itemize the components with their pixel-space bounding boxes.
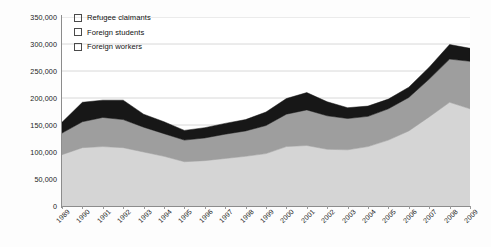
x-axis-tick-mark	[307, 206, 308, 209]
x-axis-tick-label: 2005	[381, 208, 397, 224]
x-axis-tick-label: 2002	[320, 208, 336, 224]
x-axis-tick-label: 2003	[340, 208, 356, 224]
legend-label-foreign-students: Foreign students	[87, 28, 144, 37]
x-axis-tick-mark	[470, 206, 471, 209]
x-axis-tick-mark	[225, 206, 226, 209]
x-axis-tick-mark	[368, 206, 369, 209]
x-axis-tick-label: 1998	[238, 208, 254, 224]
x-axis-tick-mark	[103, 206, 104, 209]
legend-item-foreign-workers: Foreign workers	[74, 42, 151, 51]
x-axis-tick-mark	[450, 206, 451, 209]
x-axis-tick-mark	[327, 206, 328, 209]
x-axis-tick-label: 1995	[177, 208, 193, 224]
legend-item-foreign-students: Foreign students	[74, 28, 151, 37]
x-axis-tick-mark	[184, 206, 185, 209]
x-axis-tick-mark	[205, 206, 206, 209]
y-axis-tick-label: 300,000	[30, 40, 57, 49]
x-axis-tick-label: 1989	[55, 208, 71, 224]
black-swatch-icon	[74, 14, 82, 22]
stacked-area-chart: 350,000300,000250,000200,000150,000100,0…	[0, 0, 491, 250]
x-axis-tick-label: 1999	[259, 208, 275, 224]
chart-legend: Refugee claimants Foreign students Forei…	[74, 13, 151, 51]
y-axis-tick-label: 0	[53, 202, 57, 211]
y-axis-tick-label: 350,000	[30, 13, 57, 22]
x-axis-tick-label: 2008	[442, 208, 458, 224]
x-axis-tick-mark	[164, 206, 165, 209]
x-axis-tick-label: 1991	[96, 208, 112, 224]
y-axis-tick-label: 50,000	[34, 175, 57, 184]
legend-label-refugee-claimants: Refugee claimants	[87, 13, 151, 22]
x-axis-tick-mark	[429, 206, 430, 209]
x-axis-tick-label: 1990	[75, 208, 91, 224]
x-axis-tick-label: 1993	[136, 208, 152, 224]
legend-item-refugee-claimants: Refugee claimants	[74, 13, 151, 22]
x-axis-tick-label: 1997	[218, 208, 234, 224]
x-axis-tick-label: 2001	[300, 208, 316, 224]
x-axis-tick-mark	[82, 206, 83, 209]
x-axis-tick-mark	[144, 206, 145, 209]
x-axis-tick-mark	[388, 206, 389, 209]
y-axis-labels: 350,000300,000250,000200,000150,000100,0…	[0, 17, 57, 206]
y-axis-tick-label: 200,000	[30, 94, 57, 103]
light-gray-swatch-icon	[74, 43, 82, 51]
x-axis-tick-label: 2007	[422, 208, 438, 224]
x-axis-tick-label: 1992	[116, 208, 132, 224]
x-axis-tick-label: 2004	[361, 208, 377, 224]
x-axis-tick-mark	[246, 206, 247, 209]
x-axis-tick-mark	[266, 206, 267, 209]
y-axis-tick-label: 150,000	[30, 121, 57, 130]
x-axis-tick-mark	[286, 206, 287, 209]
x-axis-tick-label: 2009	[463, 208, 479, 224]
x-axis-tick-mark	[123, 206, 124, 209]
x-axis-tick-label: 2000	[279, 208, 295, 224]
x-axis-tick-mark	[409, 206, 410, 209]
gray-swatch-icon	[74, 28, 82, 36]
y-axis-tick-label: 250,000	[30, 67, 57, 76]
x-axis-tick-label: 1994	[157, 208, 173, 224]
x-axis-tick-label: 1996	[198, 208, 214, 224]
x-axis-tick-mark	[62, 206, 63, 209]
x-axis-tick-label: 2006	[402, 208, 418, 224]
x-axis-labels: 1989199019911992199319941995199619971998…	[62, 208, 471, 250]
y-axis-tick-label: 100,000	[30, 148, 57, 157]
x-axis-tick-mark	[348, 206, 349, 209]
legend-label-foreign-workers: Foreign workers	[87, 42, 142, 51]
